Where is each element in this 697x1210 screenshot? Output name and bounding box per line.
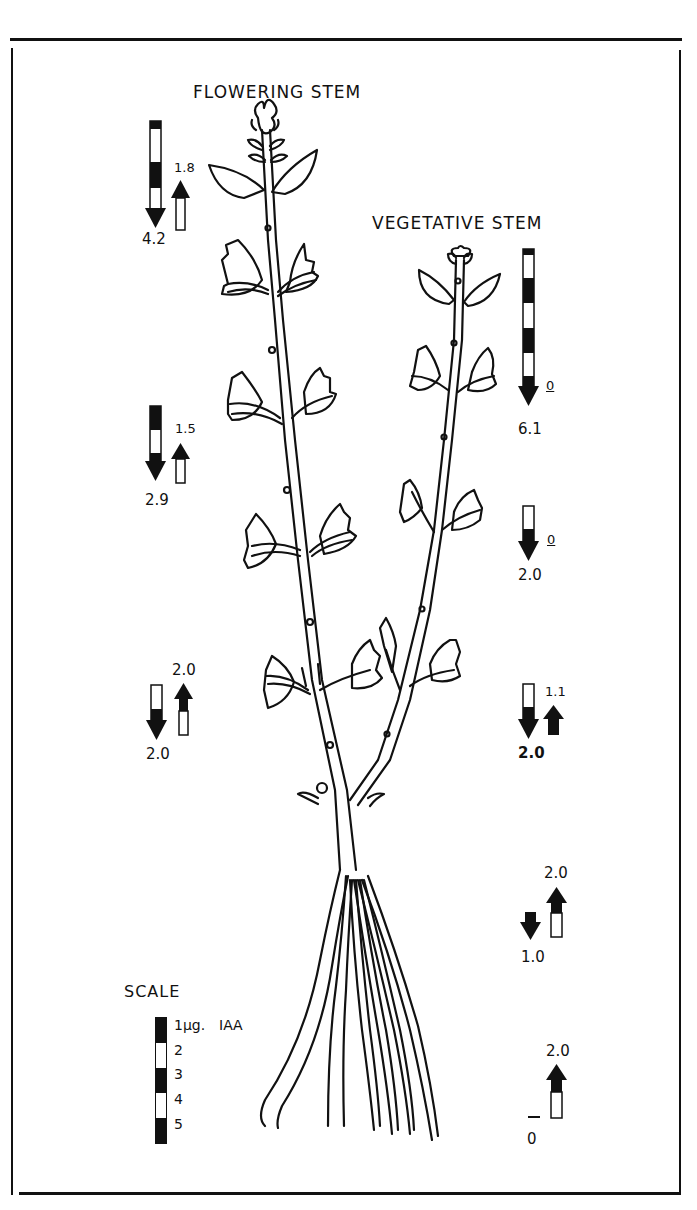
plant-illustration: [0, 0, 697, 1210]
flowering-lower-down-value: 2.0: [146, 745, 170, 763]
vegetative-apex-up-value: 0: [546, 378, 554, 393]
scale-segment-2: [156, 1043, 166, 1068]
scale-segment-1: [156, 1018, 166, 1043]
scale-tick-2: 2: [174, 1042, 183, 1058]
scale-segment-3: [156, 1068, 166, 1093]
vegetative-apex-down-value: 6.1: [518, 420, 542, 438]
scale-tick-4: 4: [174, 1091, 183, 1107]
scale-bar: [155, 1017, 167, 1144]
vegetative-lower-down-arrow: [518, 683, 540, 741]
flowering-lower-down-arrow: [146, 684, 168, 742]
vegetative-root-up-arrow: [546, 1064, 568, 1120]
vegetative-stem-drawing: [350, 246, 500, 805]
vegetative-root-zero-bar: [528, 1116, 540, 1118]
flowering-apex-down-value: 4.2: [142, 230, 166, 248]
scale-segment-5: [156, 1118, 166, 1143]
vegetative-base-up-value: 2.0: [544, 864, 568, 882]
scale-unit-label: 1µg.: [174, 1017, 205, 1033]
scale-tick-5: 5: [174, 1116, 183, 1132]
flowering-lower-up-value: 2.0: [172, 661, 196, 679]
flowering-apex-up-arrow: [171, 180, 191, 232]
vegetative-middle-down-arrow: [518, 505, 540, 563]
flowering-middle-up-arrow: [171, 443, 191, 485]
vegetative-base-down-arrow: [520, 912, 542, 942]
flowering-middle-down-arrow: [145, 405, 167, 483]
scale-substance-label: IAA: [219, 1017, 243, 1033]
flowering-middle-up-value: 1.5: [175, 421, 196, 436]
roots-drawing: [261, 783, 438, 1140]
scale-tick-3: 3: [174, 1066, 183, 1082]
vegetative-apex-down-arrow: [518, 248, 540, 410]
vegetative-base-up-arrow: [546, 887, 568, 939]
vegetative-root-down-value: 0: [527, 1130, 537, 1148]
vegetative-lower-up-value: 1.1: [545, 684, 566, 699]
flowering-lower-up-arrow: [174, 683, 194, 737]
scale-segment-4: [156, 1093, 166, 1118]
vegetative-lower-down-value: 2.0: [518, 744, 545, 762]
vegetative-base-down-value: 1.0: [521, 948, 545, 966]
flowering-apex-down-arrow: [145, 120, 167, 230]
flowering-stem-drawing: [209, 100, 382, 870]
vegetative-middle-up-value: 0: [547, 532, 555, 547]
vegetative-root-up-value: 2.0: [546, 1042, 570, 1060]
flowering-apex-up-value: 1.8: [174, 160, 195, 175]
vegetative-middle-down-value: 2.0: [518, 566, 542, 584]
scale-title: SCALE: [124, 982, 180, 1001]
vegetative-lower-up-arrow: [543, 705, 565, 737]
flowering-middle-down-value: 2.9: [145, 491, 169, 509]
